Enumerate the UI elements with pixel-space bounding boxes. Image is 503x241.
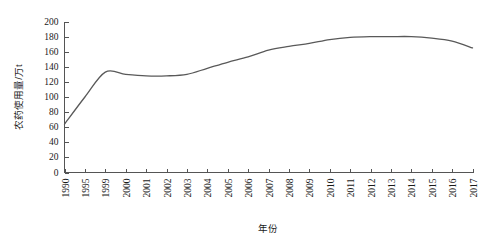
x-tick-label: 2014	[407, 178, 417, 197]
x-tick-label: 2003	[183, 178, 193, 197]
y-axis-ticks	[65, 23, 69, 174]
x-tick-label: 2009	[305, 178, 315, 197]
x-tick-label: 2017	[469, 178, 479, 197]
x-tick-label: 2005	[224, 178, 234, 197]
y-tick-label: 120	[44, 77, 59, 87]
y-tick-label: 200	[44, 17, 59, 27]
x-tick-label: 1999	[101, 178, 111, 197]
y-tick-label: 0	[54, 168, 59, 178]
x-tick-label: 2008	[285, 178, 295, 197]
x-axis-ticks	[66, 169, 474, 173]
x-axis-title: 年份	[258, 223, 278, 234]
x-tick-label: 2000	[122, 178, 132, 197]
chart-figure: 020406080100120140160180200 199019951999…	[0, 0, 503, 241]
y-tick-label: 40	[49, 137, 59, 147]
y-tick-label: 160	[44, 47, 59, 57]
x-tick-label: 2004	[203, 178, 213, 197]
y-tick-label: 80	[49, 107, 59, 117]
x-tick-label: 2015	[428, 178, 438, 197]
x-tick-label: 1990	[61, 178, 71, 197]
y-axis-title: 农药使用量/万t	[13, 64, 24, 130]
x-axis-tick-labels: 1990199519992000200120022003200420052006…	[61, 178, 479, 197]
x-tick-label: 2012	[367, 178, 377, 197]
x-tick-label: 2002	[163, 178, 173, 197]
y-axis-tick-labels: 020406080100120140160180200	[44, 17, 59, 178]
x-tick-label: 2007	[265, 178, 275, 197]
x-tick-label: 2016	[448, 178, 458, 197]
series-line-pesticide-usage	[65, 36, 473, 124]
x-tick-label: 2006	[244, 178, 254, 197]
y-tick-label: 60	[49, 122, 59, 132]
x-tick-label: 2011	[346, 178, 356, 197]
x-tick-label: 1995	[81, 178, 91, 197]
x-tick-label: 2010	[326, 178, 336, 197]
y-tick-label: 180	[44, 32, 59, 42]
pesticide-usage-line-chart: 020406080100120140160180200 199019951999…	[0, 0, 503, 241]
y-tick-label: 20	[49, 152, 59, 162]
axes	[65, 22, 473, 173]
x-tick-label: 2013	[387, 178, 397, 197]
y-tick-label: 100	[44, 92, 59, 102]
y-tick-label: 140	[44, 62, 59, 72]
x-tick-label: 2001	[142, 178, 152, 197]
